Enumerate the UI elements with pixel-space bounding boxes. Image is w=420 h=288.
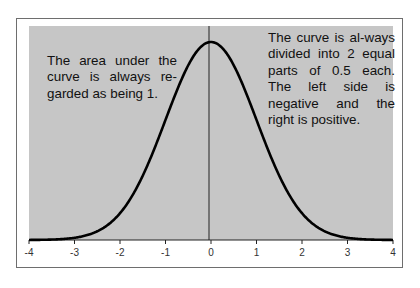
x-tick-label: 3 xyxy=(345,247,351,258)
x-tick-label: 1 xyxy=(254,247,260,258)
annotation-area-under-curve: The area under the curve is always re-ga… xyxy=(47,53,177,102)
x-tick-label: -3 xyxy=(70,247,79,258)
x-tick-label: 2 xyxy=(299,247,305,258)
x-tick-label: 4 xyxy=(390,247,396,258)
annotation-curve-halves: The curve is al-ways divided into 2 equa… xyxy=(268,30,395,128)
x-tick-label: -2 xyxy=(116,247,125,258)
x-tick-label: 0 xyxy=(208,247,214,258)
x-axis-ticks xyxy=(29,240,393,244)
x-tick-label: -1 xyxy=(161,247,170,258)
x-tick-label: -4 xyxy=(25,247,34,258)
